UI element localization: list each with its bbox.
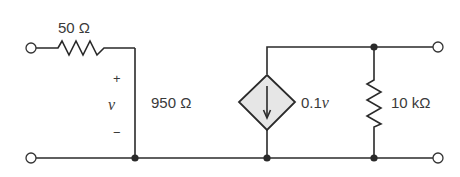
terminal-output-top <box>433 42 443 52</box>
label-50-ohm: 50 Ω <box>58 20 90 35</box>
node-dot <box>131 154 138 161</box>
label-plus: + <box>113 72 121 85</box>
node-dot <box>370 43 377 50</box>
top-right-rail <box>267 47 433 74</box>
label-minus: − <box>113 126 121 139</box>
dependent-current-source <box>239 75 295 130</box>
resistor-10k-ohm <box>367 47 381 158</box>
label-10k-ohm: 10 kΩ <box>391 95 431 110</box>
terminal-input-top <box>26 43 36 53</box>
source-coefficient: 0.1 <box>301 94 322 111</box>
terminal-output-bottom <box>433 153 443 163</box>
label-dependent-source: 0.1v <box>301 95 329 111</box>
terminal-input-bottom <box>26 153 36 163</box>
resistor-50-ohm <box>36 41 135 55</box>
source-variable: v <box>322 94 329 111</box>
label-v: v <box>108 97 115 113</box>
node-dot <box>263 154 270 161</box>
circuit-diagram: 50 Ω + v − 950 Ω 0.1v 10 kΩ <box>0 0 460 177</box>
label-950-ohm: 950 Ω <box>151 95 191 110</box>
node-dot <box>370 154 377 161</box>
